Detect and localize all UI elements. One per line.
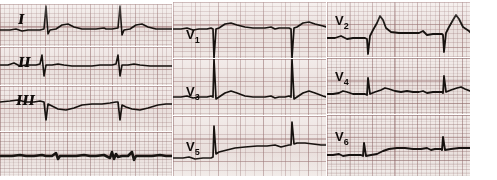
lead-label-V3-letter: V: [186, 84, 195, 99]
ecg-panel-rhythm-strip: [0, 132, 172, 176]
lead-label-V1: V1: [186, 28, 200, 45]
lead-label-I: I: [18, 12, 24, 27]
ecg-printout: I II III: [0, 0, 497, 180]
lead-label-V6-letter: V: [335, 129, 344, 144]
lead-label-V2-letter: V: [335, 13, 344, 28]
lead-label-V2-subscript: 2: [344, 21, 349, 31]
lead-label-V6-subscript: 6: [344, 137, 349, 147]
ecg-trace-rhythm-strip: [0, 132, 172, 176]
lead-label-II: II: [18, 55, 31, 70]
lead-label-V5: V5: [186, 140, 200, 157]
ecg-column-limb-leads: I II III: [0, 0, 172, 180]
lead-label-V3: V3: [186, 85, 200, 102]
ecg-panel-lead-I: [0, 4, 172, 46]
lead-label-V1-subscript: 1: [195, 35, 200, 45]
lead-label-V2: V2: [335, 14, 349, 31]
lead-label-V5-subscript: 5: [195, 147, 200, 157]
ecg-trace-lead-I: [0, 4, 172, 46]
lead-label-V4: V4: [335, 70, 349, 87]
lead-label-V6: V6: [335, 130, 349, 147]
lead-label-V5-letter: V: [186, 139, 195, 154]
lead-label-V3-subscript: 3: [195, 92, 200, 102]
lead-label-V4-letter: V: [335, 69, 344, 84]
lead-label-V1-letter: V: [186, 27, 195, 42]
lead-label-III: III: [16, 93, 35, 108]
lead-label-V4-subscript: 4: [344, 77, 349, 87]
